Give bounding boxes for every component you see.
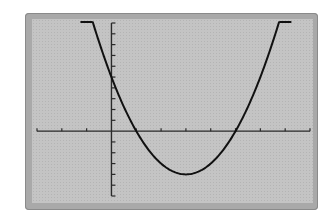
- axes: [37, 23, 310, 196]
- graph-plot: [0, 0, 331, 213]
